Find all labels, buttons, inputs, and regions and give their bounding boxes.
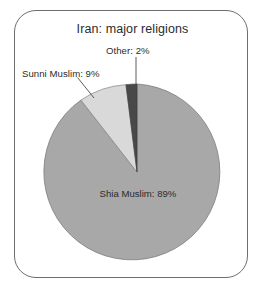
chart-figure: Iran: major religions Other: 2% Sunni Mu… xyxy=(0,0,265,292)
slice-label-other: Other: 2% xyxy=(106,45,150,56)
slice-label-shia-muslim: Shia Muslim: 89% xyxy=(83,188,193,199)
chart-title: Iran: major religions xyxy=(0,22,265,36)
slice-label-sunni-muslim: Sunni Muslim: 9% xyxy=(22,68,100,79)
pie-chart xyxy=(0,0,265,292)
pie-chart-svg xyxy=(0,0,265,292)
leader-line-sunni-muslim xyxy=(78,78,95,99)
